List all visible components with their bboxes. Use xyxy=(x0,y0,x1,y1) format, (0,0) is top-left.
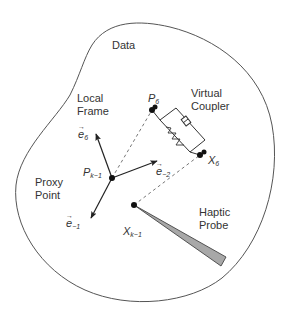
local-frame-label: Local Frame xyxy=(77,92,109,118)
haptic-probe-label: Haptic Probe xyxy=(199,206,230,232)
local-frame-label-line2: Frame xyxy=(77,105,109,118)
point-x6-dot-2 xyxy=(202,150,207,155)
e6-label: e6 xyxy=(78,128,88,144)
local-frame-label-line1: Local xyxy=(77,92,109,105)
haptic-probe-label-line2: Probe xyxy=(199,219,230,232)
x6-label: X6 xyxy=(208,154,219,170)
data-region-label: Data xyxy=(112,39,135,52)
data-region-outline xyxy=(16,23,275,302)
e-1-label: e−1 xyxy=(66,217,80,233)
proxy-point-label-line1: Proxy xyxy=(35,176,63,189)
dashed-line-pk1-p6 xyxy=(112,110,152,178)
xk1-label: Xk−1 xyxy=(123,225,142,241)
pk1-label: Pk−1 xyxy=(83,166,102,182)
point-pk1-dot xyxy=(109,175,115,181)
virtual-coupler xyxy=(152,108,205,155)
virtual-coupler-label-line1: Virtual xyxy=(191,87,230,100)
vector-e-1 xyxy=(91,178,112,218)
p6-label: P6 xyxy=(148,92,159,108)
virtual-coupler-label-line2: Coupler xyxy=(191,100,230,113)
diagram-graphics xyxy=(0,0,290,320)
haptic-probe-label-line1: Haptic xyxy=(199,206,230,219)
e-2-label: e−2 xyxy=(156,165,170,181)
diagram-canvas: Data Local Frame Virtual Coupler Proxy P… xyxy=(0,0,290,320)
vector-e-2 xyxy=(112,161,157,178)
proxy-point-label: Proxy Point xyxy=(35,176,63,202)
virtual-coupler-label: Virtual Coupler xyxy=(191,87,230,113)
proxy-point-label-line2: Point xyxy=(35,189,63,202)
point-xk1-dot xyxy=(131,202,137,208)
